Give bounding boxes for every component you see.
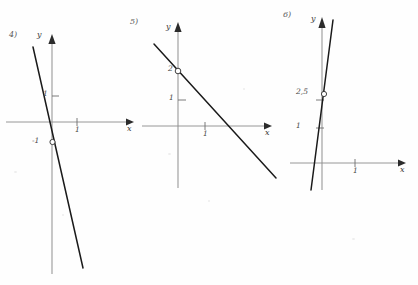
graph-6-y-tick-label-1: 1	[296, 121, 301, 130]
graph-5-x-axis-label: x	[265, 128, 270, 137]
graph-4-y-tick-label-1: 1	[43, 89, 48, 98]
graph-5-intercept-label: 2	[168, 64, 173, 73]
graph-4-plot	[0, 0, 140, 285]
graph-6: 6) y x 1 1 2,5	[280, 0, 418, 285]
graph-5-intercept-marker	[175, 68, 181, 74]
graph-6-intercept-label: 2,5	[296, 87, 308, 96]
paper-speck	[168, 153, 171, 155]
graph-6-plot	[280, 0, 418, 285]
graph-6-intercept-marker	[321, 91, 326, 96]
paper-speck	[14, 171, 17, 173]
paper-speck	[62, 214, 64, 216]
paper-speck	[208, 200, 210, 202]
worksheet-page: 4) y x 1 1 -1 5)	[0, 0, 418, 285]
graph-5-plot	[128, 0, 288, 285]
graph-6-y-axis-arrow	[318, 17, 325, 28]
graph-4-x-tick-label-1: 1	[75, 125, 80, 134]
graph-4-y-axis-arrow	[48, 34, 55, 44]
graph-4-intercept-marker	[50, 139, 55, 144]
graph-5-x-tick-label-1: 1	[203, 129, 208, 138]
graph-6-x-tick-label-1: 1	[353, 166, 358, 175]
graph-5-y-axis-arrow	[174, 22, 181, 32]
graph-6-x-axis-label: x	[400, 165, 405, 174]
graph-4-y-axis-label: y	[37, 30, 42, 39]
paper-speck	[352, 238, 355, 240]
graph-5-number-label: 5)	[130, 17, 138, 26]
graph-6-number-label: 6)	[283, 10, 291, 19]
graph-4-intercept-label: -1	[32, 136, 39, 145]
graph-5-y-tick-label-1: 1	[169, 93, 174, 102]
graph-5: 5) y x 1 1 2	[128, 0, 288, 285]
graph-4: 4) y x 1 1 -1	[0, 0, 140, 285]
graph-6-y-axis-label: y	[311, 14, 316, 23]
graph-5-y-axis-label: y	[166, 22, 171, 31]
graph-4-line	[33, 47, 83, 268]
graph-4-number-label: 4)	[9, 30, 17, 39]
paper-speck	[243, 88, 245, 90]
